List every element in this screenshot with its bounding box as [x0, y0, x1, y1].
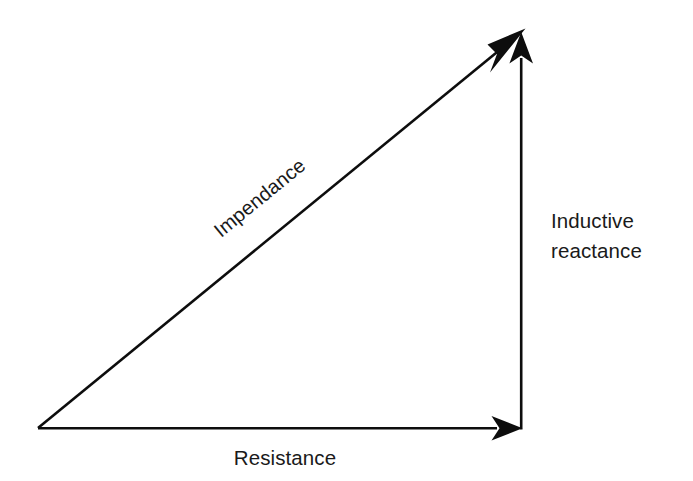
inductive-reactance-label-group: Inductive reactance [551, 209, 642, 262]
inductive-reactance-label-line2: reactance [551, 239, 642, 262]
vector-diagram-canvas: Impendance Inductive reactance Resistanc… [0, 0, 693, 481]
impendance-vector-line [38, 51, 499, 429]
resistance-label: Resistance [234, 446, 336, 469]
impendance-vector [38, 29, 526, 429]
inductive-reactance-label-line1: Inductive [551, 209, 634, 232]
impendance-label-group: Impendance [210, 154, 310, 241]
impendance-label: Impendance [210, 154, 310, 241]
impedance-triangle-diagram: Impendance Inductive reactance Resistanc… [0, 0, 693, 481]
inductive-reactance-vector [509, 32, 533, 429]
resistance-vector [38, 416, 523, 441]
